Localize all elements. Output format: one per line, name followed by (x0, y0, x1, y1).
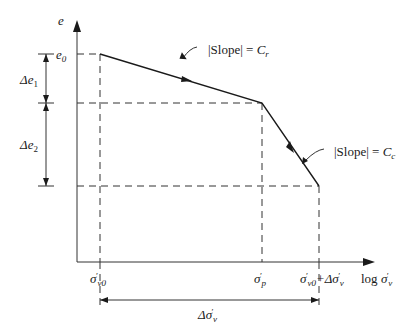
sigma-v0-label: σ′v0 (90, 272, 106, 285)
slope-cc-label: |Slope| = Cc (334, 145, 395, 158)
de1-bottom-arrow-icon (43, 95, 49, 103)
x-axis-arrow-icon (363, 258, 375, 266)
cr-leader-line (183, 47, 197, 58)
y-axis-arrow-icon (73, 20, 81, 32)
y-axis-label: e (58, 14, 64, 27)
delta-sigma-label: Δσ′v (198, 308, 217, 321)
sigma-final-label: σ′v0+Δσ′v (300, 272, 344, 285)
recompression-direction-arrow-icon (181, 76, 192, 82)
e-log-sigma-diagram: e e0 Δe1 Δe2 |Slope| = Cr |Slope| = Cc σ… (0, 0, 404, 331)
de2-bottom-arrow-icon (43, 178, 49, 186)
de2-top-arrow-icon (43, 103, 49, 111)
delta-e2-label: Δe2 (20, 138, 38, 151)
cc-leader-line (306, 149, 324, 160)
delta-sigma-left-arrow-icon (100, 297, 108, 303)
de1-top-arrow-icon (43, 54, 49, 62)
delta-e-dimensions (38, 54, 54, 186)
consolidation-curve (100, 54, 319, 186)
sigma-p-label: σ′p (254, 272, 266, 285)
x-axis (77, 258, 375, 266)
slope-cr-label: |Slope| = Cr (208, 43, 269, 56)
delta-e1-label: Δe1 (20, 73, 38, 86)
y-axis (73, 20, 81, 262)
delta-sigma-right-arrow-icon (311, 297, 319, 303)
e0-label: e0 (56, 48, 66, 61)
guide-lines (77, 54, 319, 310)
delta-sigma-dimension (100, 297, 319, 303)
x-axis-label: log σ′v (361, 272, 392, 285)
